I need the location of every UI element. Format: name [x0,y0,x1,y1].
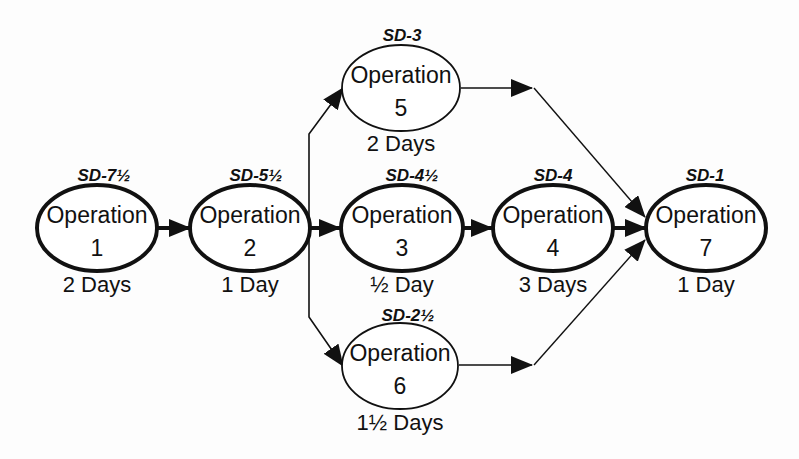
node-label: Operation [502,202,603,228]
edge-op2-op6 [309,228,343,366]
node-label: Operation [349,340,450,366]
node-label: Operation [655,202,756,228]
node-operation-2: SD-5½ Operation 2 1 Day [190,166,310,297]
duration-label: 1 Day [221,272,278,297]
node-operation-7: SD-1 Operation 7 1 Day [646,166,766,297]
diagram-canvas: SD-7½ Operation 1 2 Days SD-5½ Operation… [0,0,799,459]
node-number: 6 [394,373,407,399]
operation-network-diagram: SD-7½ Operation 1 2 Days SD-5½ Operation… [0,0,799,459]
start-date-label: SD-4½ [386,166,439,185]
start-date-label: SD-4 [534,166,573,185]
node-number: 7 [700,235,713,261]
node-operation-1: SD-7½ Operation 1 2 Days [37,166,157,297]
node-label: Operation [350,62,451,88]
start-date-label: SD-2½ [382,306,435,325]
node-operation-6: SD-2½ Operation 6 1½ Days [342,306,458,435]
start-date-label: SD-7½ [78,166,131,185]
duration-label: 2 Days [63,272,131,297]
start-date-label: SD-5½ [230,166,283,185]
node-operation-3: SD-4½ Operation 3 ½ Day [341,166,463,297]
duration-label: 2 Days [367,131,435,156]
node-operation-4: SD-4 Operation 4 3 Days [493,166,613,297]
node-operation-5: SD-3 Operation 5 2 Days [342,26,460,156]
edge-op2-op5 [309,88,343,228]
node-number: 5 [395,95,408,121]
node-label: Operation [46,202,147,228]
node-number: 3 [396,235,409,261]
duration-label: 1 Day [677,272,734,297]
node-label: Operation [199,202,300,228]
start-date-label: SD-1 [686,166,725,185]
node-number: 4 [547,235,560,261]
start-date-label: SD-3 [383,26,422,45]
node-label: Operation [351,202,452,228]
node-number: 2 [244,235,257,261]
duration-label: 3 Days [519,272,587,297]
node-number: 1 [91,235,104,261]
duration-label: ½ Day [370,272,434,297]
duration-label: 1½ Days [357,410,444,435]
